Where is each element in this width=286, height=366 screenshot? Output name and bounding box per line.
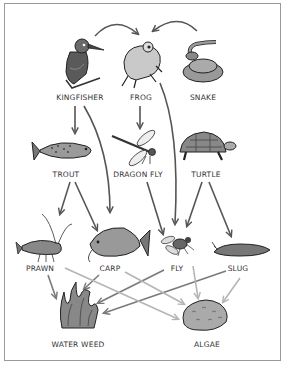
label-snake: SNAKE — [190, 93, 216, 102]
label-carp: CARP — [100, 264, 121, 273]
label-dragonfly: DRAGON FLY — [113, 170, 162, 179]
dragonfly-icon — [112, 128, 157, 168]
arrow-dragonfly-fly — [147, 182, 163, 234]
carp-icon — [88, 228, 150, 262]
arrow-turtle-slug — [209, 182, 231, 236]
arrow-frog-fly — [160, 83, 176, 224]
trout-icon — [32, 142, 91, 160]
arrow-trout-carp — [75, 182, 97, 230]
algae-icon — [183, 300, 227, 330]
arrow-kingfisher-frog — [95, 24, 138, 36]
label-algae: ALGAE — [194, 340, 220, 349]
frog-icon — [122, 42, 162, 88]
fly-icon — [160, 235, 194, 256]
prawn-icon — [16, 214, 72, 262]
label-slug: SLUG — [228, 264, 249, 273]
arrow-snake-frog — [153, 22, 197, 32]
label-frog: FROG — [130, 93, 152, 102]
label-fly: FLY — [171, 264, 184, 273]
label-prawn: PRAWN — [26, 264, 54, 273]
turtle-icon — [180, 132, 236, 160]
label-trout: TROUT — [53, 170, 80, 179]
arrow-prawn-waterweed — [48, 275, 56, 298]
arrow-turtle-fly — [187, 182, 202, 226]
label-turtle: TURTLE — [191, 170, 220, 179]
slug-icon — [212, 242, 270, 256]
waterweed-icon — [60, 282, 98, 328]
arrow-slug-algae — [223, 278, 240, 302]
arrow-kingfisher-carp — [84, 106, 110, 212]
label-waterweed: WATER WEED — [51, 340, 104, 349]
snake-icon — [183, 42, 223, 82]
food-web-diagram — [0, 0, 286, 366]
arrow-trout-prawn — [60, 182, 70, 214]
label-kingfisher: KINGFISHER — [56, 93, 103, 102]
kingfisher-icon — [66, 39, 104, 88]
